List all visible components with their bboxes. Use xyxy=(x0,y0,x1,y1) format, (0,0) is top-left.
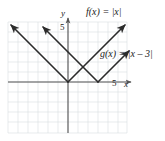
absolute-value-graph-figure: f(x) = |x| g(x) = |x – 3| y x 5 5 xyxy=(0,0,165,141)
function-label-f: f(x) = |x| xyxy=(86,7,122,17)
x-axis-label: x xyxy=(124,80,128,89)
x-axis-tick-label-5: 5 xyxy=(112,79,117,88)
function-label-g: g(x) = |x – 3| xyxy=(100,49,153,59)
plot-canvas xyxy=(0,0,165,141)
y-axis-tick-label-5: 5 xyxy=(60,23,65,32)
y-axis-label: y xyxy=(61,9,65,18)
